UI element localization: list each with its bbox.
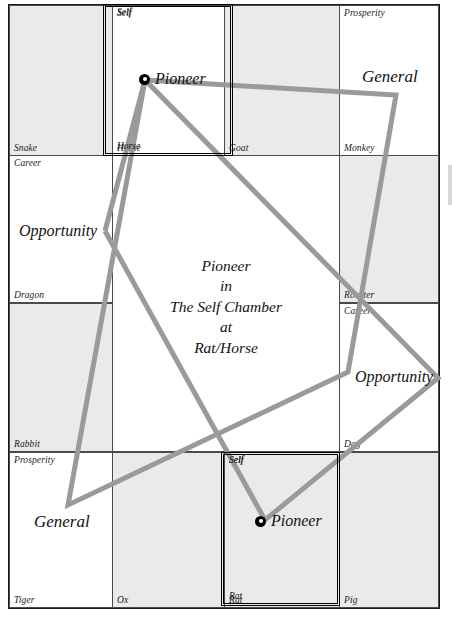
center-caption-line-2: in xyxy=(112,276,340,296)
cell-rabbit[interactable]: Rabbit xyxy=(9,303,113,452)
branch-label-rabbit: Rabbit xyxy=(14,439,40,449)
star-opportunity-right[interactable]: Opportunity xyxy=(355,368,433,386)
star-general-bottom-left[interactable]: General xyxy=(34,512,90,532)
palace-label-prosperity-top: Prosperity xyxy=(344,8,385,18)
center-caption-line-3: The Self Chamber xyxy=(112,297,340,317)
star-opportunity-left[interactable]: Opportunity xyxy=(19,222,97,240)
page-edge-shadow xyxy=(448,165,452,205)
center-caption-line-5: Rat/Horse xyxy=(112,338,340,358)
branch-label-dog: Dog xyxy=(344,439,361,449)
branch-label-snake: Snake xyxy=(14,143,37,153)
star-label-pioneer-top: Pioneer xyxy=(155,70,206,88)
star-pioneer-bottom[interactable]: Pioneer xyxy=(255,512,322,530)
center-caption-line-1: Pioneer xyxy=(112,256,340,276)
cell-ox[interactable]: Ox xyxy=(112,452,225,608)
center-caption-line-4: at xyxy=(112,317,340,337)
cell-rooster[interactable]: Rooster xyxy=(339,155,439,303)
pioneer-dot-icon xyxy=(255,516,266,527)
star-general-top-right[interactable]: General xyxy=(362,67,418,87)
branch-label-pig: Pig xyxy=(344,595,358,605)
star-pioneer-top[interactable]: Pioneer xyxy=(139,70,206,88)
center-caption: Pioneer in The Self Chamber at Rat/Horse xyxy=(112,256,340,358)
palace-label-self-bottom-overlay: Self xyxy=(229,455,243,465)
palace-label-career-right: Career xyxy=(344,306,371,316)
branch-label-horse-overlay: Horse xyxy=(117,141,140,151)
palace-label-career-left: Career xyxy=(14,158,41,168)
branch-label-tiger: Tiger xyxy=(14,595,35,605)
cell-goat[interactable]: Goat xyxy=(224,5,340,156)
branch-label-ox: Ox xyxy=(117,595,128,605)
palace-label-self-top-overlay: Self xyxy=(117,7,131,17)
branch-label-monkey: Monkey xyxy=(344,143,375,153)
branch-label-dragon: Dragon xyxy=(14,290,44,300)
branch-label-rat-overlay: Rat xyxy=(229,591,242,601)
palace-label-prosperity-bottom: Prosperity xyxy=(14,455,55,465)
star-label-pioneer-bottom: Pioneer xyxy=(271,512,322,530)
chart-canvas: Snake Self Horse Goat Prosperity Monkey … xyxy=(0,0,452,617)
cell-snake[interactable]: Snake xyxy=(9,5,113,156)
pioneer-dot-icon xyxy=(139,74,150,85)
branch-label-rooster: Rooster xyxy=(344,290,374,300)
cell-pig[interactable]: Pig xyxy=(339,452,439,608)
